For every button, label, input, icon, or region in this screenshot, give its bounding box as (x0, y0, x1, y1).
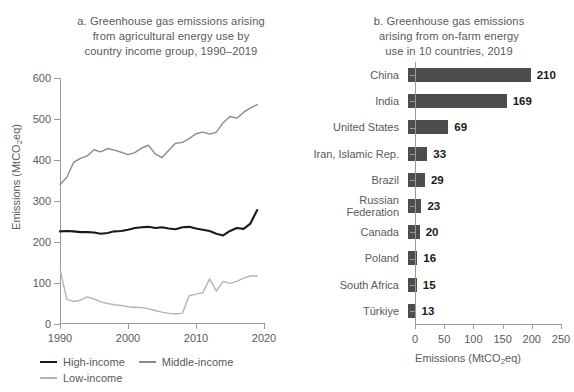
panel-b-x-tick-100 (473, 324, 474, 329)
bar-category-label: Russian Federation (302, 194, 408, 218)
bar-y-tick (410, 128, 415, 129)
bar-row[interactable]: Brazil29 (302, 167, 561, 193)
bar-y-tick (410, 285, 415, 286)
bar-row[interactable]: Türkiye13 (302, 298, 561, 324)
legend-swatch-low-income (40, 377, 57, 379)
x-tick-1990 (60, 324, 61, 329)
bar-category-label: United States (302, 121, 408, 133)
bar-track: 29 (408, 167, 561, 193)
bar-value-label: 169 (513, 95, 532, 107)
bar-track: 20 (408, 219, 561, 245)
x-tick-2010 (196, 324, 197, 329)
legend-row-1: High-income Middle-income (40, 356, 310, 368)
panel-b-x-tick-label-200: 200 (523, 333, 541, 345)
x-axis-label-suffix: eq) (505, 352, 521, 364)
bar-track: 23 (408, 193, 561, 219)
panel-b-x-tick-200 (532, 324, 533, 329)
bar[interactable] (408, 94, 507, 108)
panel-a-series-lines (60, 78, 264, 324)
bar-category-label: Iran, Islamic Rep. (302, 148, 408, 160)
x-tick-label-2020: 2020 (252, 332, 276, 344)
line-series-low-income (60, 269, 257, 314)
panel-b-bar-chart: b. Greenhouse gas emissions arising from… (318, 0, 561, 392)
bar-category-label: Poland (302, 252, 408, 264)
bar-row[interactable]: South Africa15 (302, 272, 561, 298)
bar-value-label: 13 (422, 305, 435, 317)
bar-category-label: South Africa (302, 279, 408, 291)
panel-b-x-axis-label: Emissions (MtCO2eq) (378, 352, 558, 366)
panel-b-title: b. Greenhouse gas emissions arising from… (324, 14, 574, 59)
bar-value-label: 15 (423, 279, 436, 291)
bar-y-tick (410, 259, 415, 260)
panel-b-y-axis-line (415, 62, 416, 324)
legend-item-low-income[interactable]: Low-income (40, 372, 122, 384)
bar-track: 15 (408, 272, 561, 298)
bar-track: 210 (408, 62, 561, 88)
bar-track: 16 (408, 245, 561, 271)
panel-b-x-tick-label-50: 50 (438, 333, 450, 345)
bar-track: 169 (408, 88, 561, 114)
panel-b-title-line-2: arising from on-farm energy (324, 29, 574, 44)
bar-y-tick (410, 232, 415, 233)
panel-a-title-line-3: country income group, 1990–2019 (46, 44, 296, 59)
panel-a-legend: High-income Middle-income Low-income (40, 356, 310, 388)
legend-item-middle-income[interactable]: Middle-income (139, 356, 234, 368)
bar-row[interactable]: Canada20 (302, 219, 561, 245)
bar-y-tick (410, 101, 415, 102)
bar-track: 69 (408, 114, 561, 140)
panel-a-title-line-2: from agricultural energy use by (46, 29, 296, 44)
x-tick-2020 (264, 324, 265, 329)
panel-b-x-tick-label-100: 100 (464, 333, 482, 345)
panel-a-title-line-1: a. Greenhouse gas emissions arising (46, 14, 296, 29)
bar-category-label: Türkiye (302, 305, 408, 317)
panel-b-x-tick-label-0: 0 (412, 333, 418, 345)
bar-row[interactable]: China210 (302, 62, 561, 88)
x-tick-2000 (128, 324, 129, 329)
bar-value-label: 210 (537, 69, 556, 81)
bar-row[interactable]: United States69 (302, 114, 561, 140)
bar-value-label: 23 (427, 200, 440, 212)
bar-value-label: 69 (454, 121, 467, 133)
panel-b-title-line-1: b. Greenhouse gas emissions (324, 14, 574, 29)
legend-item-high-income[interactable]: High-income (40, 356, 125, 368)
panel-a-title: a. Greenhouse gas emissions arising from… (46, 14, 296, 59)
bar[interactable] (408, 68, 531, 82)
line-series-middle-income (60, 105, 257, 185)
panel-b-x-tick-150 (503, 324, 504, 329)
bar-y-tick (410, 75, 415, 76)
x-tick-label-2010: 2010 (184, 332, 208, 344)
bar-value-label: 20 (426, 226, 439, 238)
bar-row[interactable]: India169 (302, 88, 561, 114)
panel-b-title-line-3: use in 10 countries, 2019 (324, 44, 574, 59)
legend-swatch-middle-income (139, 361, 156, 363)
bar-category-label: Canada (302, 226, 408, 238)
y-tick-label-600: 600 (33, 72, 51, 84)
bar-value-label: 29 (431, 174, 444, 186)
bar-y-tick (410, 311, 415, 312)
y-tick-label-400: 400 (33, 154, 51, 166)
panel-b-x-tick-250 (561, 324, 562, 329)
y-axis-label-suffix: eq) (10, 124, 22, 140)
panel-a-plot-area: 0100200300400500600 1990200020102020 (60, 78, 264, 324)
bar-track: 13 (408, 298, 561, 324)
legend-swatch-high-income (40, 361, 57, 364)
bar-row[interactable]: Russian Federation23 (302, 193, 561, 219)
bar-value-label: 33 (433, 148, 446, 160)
y-tick-label-200: 200 (33, 236, 51, 248)
bar-category-label: India (302, 95, 408, 107)
y-tick-label-500: 500 (33, 113, 51, 125)
panel-b-bars-container: China210India169United States69Iran, Isl… (302, 62, 561, 324)
legend-label-low-income: Low-income (63, 372, 122, 384)
panel-b-x-tick-label-250: 250 (552, 333, 570, 345)
bar-y-tick (410, 154, 415, 155)
x-tick-label-1990: 1990 (48, 332, 72, 344)
bar-row[interactable]: Iran, Islamic Rep.33 (302, 141, 561, 167)
legend-label-high-income: High-income (63, 356, 125, 368)
bar-category-label: China (302, 69, 408, 81)
panel-b-x-tick-label-150: 150 (493, 333, 511, 345)
bar-track: 33 (408, 141, 561, 167)
y-axis-label-subscript: 2 (15, 140, 24, 144)
bar-row[interactable]: Poland16 (302, 245, 561, 271)
panel-a-line-chart: a. Greenhouse gas emissions arising from… (0, 0, 318, 392)
